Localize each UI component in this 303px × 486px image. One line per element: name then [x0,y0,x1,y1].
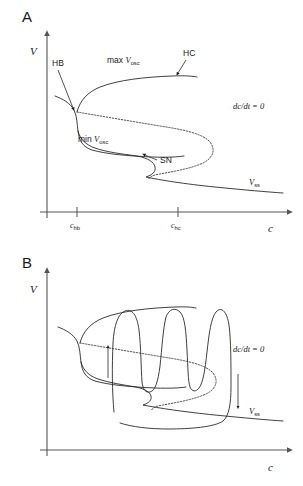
tick-chb-sub: hb [74,225,80,231]
min-vosc-sub: osc [99,139,108,145]
panel-a-max-vosc-label: max Vosc [107,55,140,66]
figure-root: A V c chb chc HB HC [0,0,303,486]
panel-a-y-axis-label: V [30,45,38,57]
panel-b-nullcline-label: dc/dt = 0 [233,344,265,354]
panel-a-hc-label: HC [183,48,195,58]
panel-a-nullcline-label: dc/dt = 0 [233,101,265,111]
panel-a: A V c chb chc HB HC [22,8,288,234]
panel-b-x-axis-label: c [268,461,273,473]
min-vosc-prefix: min [78,134,94,144]
panel-a-tick-chb-label: chb [70,221,80,231]
panel-a-sn-label: SN [160,155,172,165]
panel-b-min-vosc-branch [81,362,186,388]
panel-a-tick-chc-label: chc [171,221,181,231]
panel-b-vss-label: Vss [249,406,260,417]
max-vosc-prefix: max [107,55,125,65]
panel-b: B V c dc/dt = 0 Vss [22,254,288,473]
panel-a-min-vosc-label: min Vosc [78,134,108,145]
max-vosc-sub: osc [131,60,140,66]
panel-a-letter: A [22,8,32,25]
panel-b-y-axis-label: V [30,283,38,295]
tick-chc-sub: hc [175,225,181,231]
panel-a-max-vosc-branch [77,76,197,112]
vss-sub: ss [254,411,260,417]
bifurcation-figure: A V c chb chc HB HC [0,0,303,486]
panel-a-hb-leader [58,70,73,108]
panel-a-vss-label: Vss [249,177,260,188]
panel-a-unstable-branch [77,112,213,180]
panel-b-trajectory [112,309,231,429]
panel-b-unstable-branch [80,343,216,411]
vss-sub: ss [254,182,260,188]
panel-b-letter: B [22,254,32,271]
panel-a-hb-label: HB [52,58,64,68]
panel-a-x-axis-label: c [268,222,273,234]
panel-a-hc-leader [178,60,186,73]
